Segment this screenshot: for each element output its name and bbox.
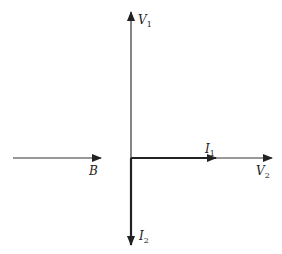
label-i1: I1 <box>204 142 215 158</box>
label-b: B <box>88 164 98 178</box>
label-i2: I2 <box>138 229 149 245</box>
label-v1: V1 <box>138 13 152 29</box>
phasor-diagram: V1 V2 I1 I2 B <box>0 0 282 254</box>
label-v2: V2 <box>256 164 270 180</box>
